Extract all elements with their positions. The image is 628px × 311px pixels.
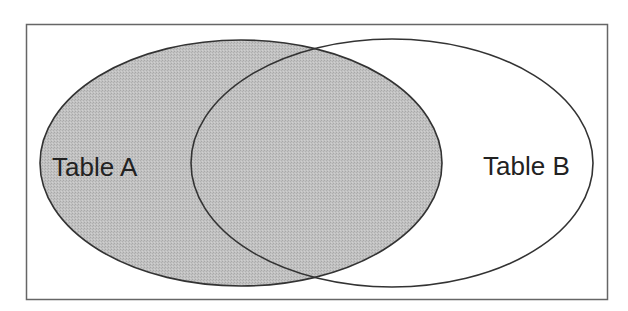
set-b-label: Table B	[483, 151, 570, 181]
set-a-label: Table A	[52, 152, 138, 182]
venn-diagram: Table A Table B	[0, 0, 628, 311]
